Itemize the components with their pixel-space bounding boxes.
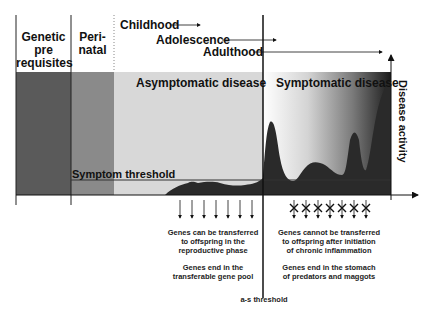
perinatal-label: Peri- natal [71, 31, 114, 57]
note-right-1b: to offspring after initiation [272, 237, 386, 246]
note-right-2a: Genes end in the stomach [272, 263, 386, 272]
perinatal-line-2: natal [71, 44, 114, 57]
transfer-arrows [180, 200, 252, 218]
note-left-2a: Genes end in the [160, 263, 266, 272]
symptom-threshold-label: Symptom threshold [72, 168, 175, 180]
non-transferable-note: Genes cannot be transferred to offspring… [272, 228, 386, 281]
note-left-1c: reproductive phase [160, 246, 266, 255]
genetic-prerequisites-label: Genetic pre requisites [16, 31, 71, 70]
symptomatic-disease-label: Symptomatic disease [276, 77, 399, 89]
note-left-2b: transferable gene pool [160, 272, 266, 281]
genetic-line-3: requisites [16, 57, 71, 70]
note-left-1b: to offspring in the [160, 237, 266, 246]
adulthood-label: Adulthood [203, 46, 263, 58]
note-right-1c: of chronic inflammation [272, 246, 386, 255]
as-threshold-label: a-s threshold [237, 295, 291, 304]
asymptomatic-disease-label: Asymptomatic disease [136, 77, 266, 89]
note-right-2b: of predators and maggots [272, 272, 386, 281]
disease-activity-label: Disease activity [397, 80, 409, 163]
note-right-1a: Genes cannot be transferred [272, 228, 386, 237]
note-left-1a: Genes can be transferred [160, 228, 266, 237]
transferable-note: Genes can be transferred to offspring in… [160, 228, 266, 281]
childhood-label: Childhood [120, 19, 179, 31]
genetic-band [16, 72, 71, 195]
